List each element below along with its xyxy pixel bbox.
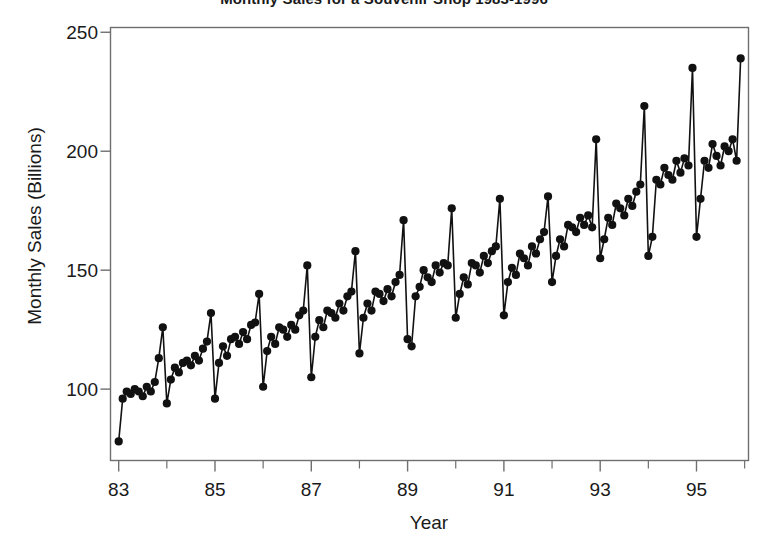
x-axis-tick-83: 83 — [89, 480, 149, 499]
y-axis-tick-labels: 100150200250 — [20, 0, 98, 549]
chart-title: Monthly Sales for a Souvenir Shop 1983-1… — [0, 0, 768, 8]
x-axis-tick-93: 93 — [570, 480, 630, 499]
x-axis-tick-89: 89 — [378, 480, 438, 499]
x-axis-tick-87: 87 — [281, 480, 341, 499]
x-axis-ticks — [119, 461, 745, 472]
x-axis-tick-91: 91 — [474, 480, 534, 499]
plot-area — [0, 0, 768, 549]
y-axis-tick-150: 150 — [40, 261, 98, 280]
x-axis-tick-labels: 83858789919395 — [0, 480, 768, 506]
series-line-monthly-sales — [119, 58, 741, 441]
y-axis-tick-250: 250 — [40, 23, 98, 42]
x-axis-label: Year — [110, 512, 748, 534]
axes-frame — [111, 28, 749, 461]
y-axis-tick-200: 200 — [40, 142, 98, 161]
y-axis-tick-100: 100 — [40, 380, 98, 399]
chart-figure: Monthly Sales for a Souvenir Shop 1983-1… — [0, 0, 768, 549]
x-axis-tick-95: 95 — [666, 480, 726, 499]
y-axis-ticks — [101, 32, 111, 389]
x-axis-tick-85: 85 — [185, 480, 245, 499]
